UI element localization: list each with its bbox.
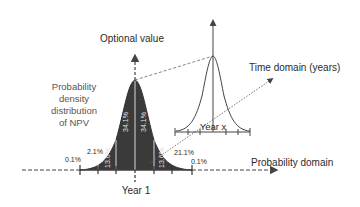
npv-distribution-diagram: Optional value Time domain (years) Proba… — [0, 0, 360, 207]
pct-left-tail: 0.1% — [65, 156, 81, 163]
pct-right-center: 34.1% — [140, 112, 147, 132]
pct-right-tail: 0.1% — [191, 158, 207, 165]
probability-domain-label: Probability domain — [251, 157, 333, 168]
density-label-line-1: Probability — [52, 81, 97, 92]
apex-connector — [135, 56, 213, 80]
pct-right-outer: 21.1% — [174, 149, 194, 156]
density-label-line-2: density — [59, 93, 89, 104]
time-domain-label: Time domain (years) — [249, 62, 340, 73]
optional-value-label: Optional value — [100, 33, 164, 44]
year-x-label: Year x — [200, 121, 227, 132]
main-bell-curve — [80, 80, 192, 170]
density-label: Probability density distribution of NPV — [51, 81, 97, 128]
pct-left-center: 34.1% — [122, 112, 129, 132]
pct-left-mid: 13.6% — [104, 148, 111, 168]
year-1-label: Year 1 — [122, 185, 151, 196]
pct-right-mid: 13.6% — [158, 148, 165, 168]
pct-left-outer: 2.1% — [87, 148, 103, 155]
density-label-line-4: of NPV — [59, 117, 90, 128]
density-label-line-3: distribution — [51, 105, 97, 116]
